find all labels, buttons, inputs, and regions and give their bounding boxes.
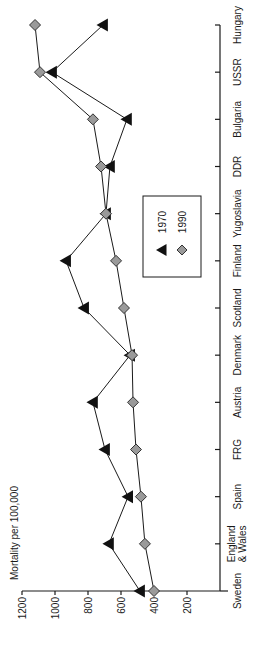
value-tick-label: 800 xyxy=(83,597,94,614)
diamond-marker xyxy=(135,491,146,502)
diamond-marker xyxy=(111,255,122,266)
value-tick-label: 400 xyxy=(149,597,160,614)
triangle-marker xyxy=(60,254,71,267)
category-label: Scotland xyxy=(232,289,243,328)
triangle-marker xyxy=(102,537,113,550)
category-label: Spain xyxy=(232,484,243,510)
category-label: Sweden xyxy=(232,573,243,609)
diamond-marker xyxy=(149,586,160,597)
triangle-marker xyxy=(133,585,144,598)
category-label: Yugoslavia xyxy=(232,189,243,238)
series-line-1990 xyxy=(35,25,154,591)
category-label: Denmark xyxy=(232,334,243,376)
category-label: & Wales xyxy=(237,525,248,562)
category-label: England xyxy=(226,525,237,562)
diamond-marker xyxy=(139,538,150,549)
value-tick-label: 200 xyxy=(182,597,193,614)
diamond-marker xyxy=(128,397,139,408)
category-axis: SwedenEngland& WalesSpainFRGAustriaDenma… xyxy=(215,6,248,609)
category-label: USSR xyxy=(232,58,243,86)
mortality-line-chart: 12001000800600400200 SwedenEngland& Wale… xyxy=(0,0,262,652)
legend-label-1990: 1990 xyxy=(177,210,188,233)
y-axis-title: Mortality per 100,000 xyxy=(9,486,20,580)
diamond-marker xyxy=(30,20,41,31)
value-tick-label: 1200 xyxy=(17,597,28,620)
triangle-marker xyxy=(78,302,89,315)
diamond-marker xyxy=(127,350,138,361)
triangle-marker xyxy=(120,113,131,126)
triangle-marker xyxy=(122,490,133,503)
category-label: Bulgaria xyxy=(232,101,243,138)
series-layer xyxy=(30,19,160,598)
value-tick-label: 600 xyxy=(116,597,127,614)
diamond-marker xyxy=(131,444,142,455)
category-label: Hungary xyxy=(232,6,243,44)
value-axis: 12001000800600400200 xyxy=(17,591,221,619)
triangle-marker xyxy=(86,396,97,409)
category-label: Finland xyxy=(232,244,243,277)
diamond-marker xyxy=(96,161,107,172)
triangle-marker xyxy=(46,66,57,79)
category-label: Austria xyxy=(232,386,243,418)
value-tick-label: 1000 xyxy=(50,597,61,620)
diamond-marker xyxy=(118,303,129,314)
legend: 19701990 xyxy=(143,196,201,277)
category-label: DDR xyxy=(232,156,243,178)
legend-box xyxy=(143,196,201,277)
category-label: FRG xyxy=(232,439,243,460)
legend-label-1970: 1970 xyxy=(157,210,168,233)
